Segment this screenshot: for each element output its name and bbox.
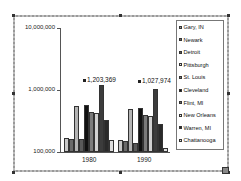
legend-swatch-icon: [179, 126, 182, 129]
legend-item[interactable]: Flint, MI: [179, 100, 203, 106]
legend-label: Detroit: [184, 49, 200, 55]
legend-swatch-icon: [179, 114, 182, 117]
resize-handle-t[interactable]: [119, 14, 122, 17]
legend-item[interactable]: Pittsburgh: [179, 62, 209, 68]
resize-corner-icon[interactable]: [222, 167, 229, 174]
legend-swatch-icon: [179, 101, 182, 104]
legend-label: Chattanooga: [184, 137, 216, 143]
legend-label: Newark: [184, 37, 203, 43]
legend-swatch-icon: [179, 38, 182, 41]
legend-swatch-icon: [179, 51, 182, 54]
x-axis: [60, 152, 170, 153]
legend-label: Pittsburgh: [184, 62, 209, 68]
legend-swatch-icon: [179, 26, 182, 29]
x-tick-label: 1990: [137, 156, 151, 163]
legend-swatch-icon: [179, 76, 182, 79]
y-tick: [57, 152, 61, 153]
bar[interactable]: [109, 140, 114, 152]
legend-label: Warren, MI: [184, 125, 211, 131]
legend-item[interactable]: Gary, IN: [179, 24, 204, 30]
legend-item[interactable]: Warren, MI: [179, 125, 211, 131]
resize-handle-bl[interactable]: [12, 171, 15, 174]
resize-handle-b[interactable]: [119, 171, 122, 174]
y-tick-label: 10,000,000: [25, 24, 55, 30]
legend-item[interactable]: New Orleans: [179, 112, 216, 118]
legend-label: Flint, MI: [184, 100, 204, 106]
legend-item[interactable]: Chattanooga: [179, 137, 216, 143]
legend-label: St. Louis: [184, 74, 206, 80]
legend-item[interactable]: Newark: [179, 37, 202, 43]
legend-swatch-icon: [179, 63, 182, 66]
legend-label: Cleveland: [184, 87, 209, 93]
legend-label: Gary, IN: [184, 24, 204, 30]
legend-swatch-icon: [179, 89, 182, 92]
legend-item[interactable]: Cleveland: [179, 87, 208, 93]
data-label-detroit-1990: 1,027,974: [138, 77, 171, 84]
x-tick-label: 1980: [82, 156, 96, 163]
legend-swatch-icon: [179, 139, 182, 142]
resize-handle-r[interactable]: [227, 92, 230, 95]
resize-handle-tl[interactable]: [12, 14, 15, 17]
y-tick-label: 1,000,000: [28, 86, 55, 92]
bar[interactable]: [163, 148, 168, 152]
y-tick-label: 100,000: [33, 148, 55, 154]
resize-handle-l[interactable]: [12, 92, 15, 95]
data-label-detroit-1980: 1,203,369: [83, 76, 116, 83]
legend-label: New Orleans: [184, 112, 216, 118]
resize-handle-tr[interactable]: [227, 14, 230, 17]
plot-area[interactable]: [60, 28, 170, 152]
legend[interactable]: Gary, INNewarkDetroitPittsburghSt. Louis…: [176, 20, 224, 150]
legend-item[interactable]: St. Louis: [179, 74, 205, 80]
legend-item[interactable]: Detroit: [179, 49, 200, 55]
